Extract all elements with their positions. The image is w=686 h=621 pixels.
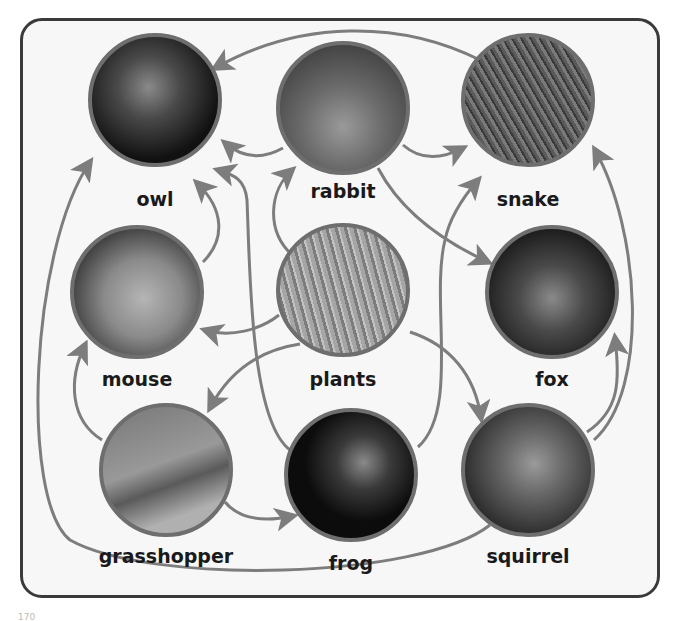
node-snake (461, 33, 595, 167)
label-fox: fox (472, 368, 632, 390)
arrow-grasshopper-to-mouse (74, 345, 102, 440)
node-rabbit (276, 41, 410, 175)
node-frog (284, 408, 418, 542)
arrow-frog-to-snake (418, 180, 478, 447)
label-mouse: mouse (57, 368, 217, 390)
label-frog: frog (271, 552, 431, 574)
label-plants: plants (263, 368, 423, 390)
arrow-rabbit-to-owl (225, 143, 283, 156)
node-grasshopper (99, 403, 233, 537)
label-rabbit: rabbit (263, 180, 423, 202)
label-owl: owl (75, 188, 235, 210)
node-mouse (70, 225, 204, 359)
page-number: 170 (18, 612, 35, 621)
arrow-plants-to-mouse (205, 315, 279, 333)
label-squirrel: squirrel (448, 545, 608, 567)
label-snake: snake (448, 188, 608, 210)
label-grasshopper: grasshopper (86, 545, 246, 567)
node-fox (485, 225, 619, 359)
arrow-grasshopper-to-frog (225, 502, 293, 519)
node-plants (276, 223, 410, 357)
node-squirrel (461, 403, 595, 537)
arrow-rabbit-to-snake (403, 145, 463, 157)
node-owl (88, 33, 222, 167)
